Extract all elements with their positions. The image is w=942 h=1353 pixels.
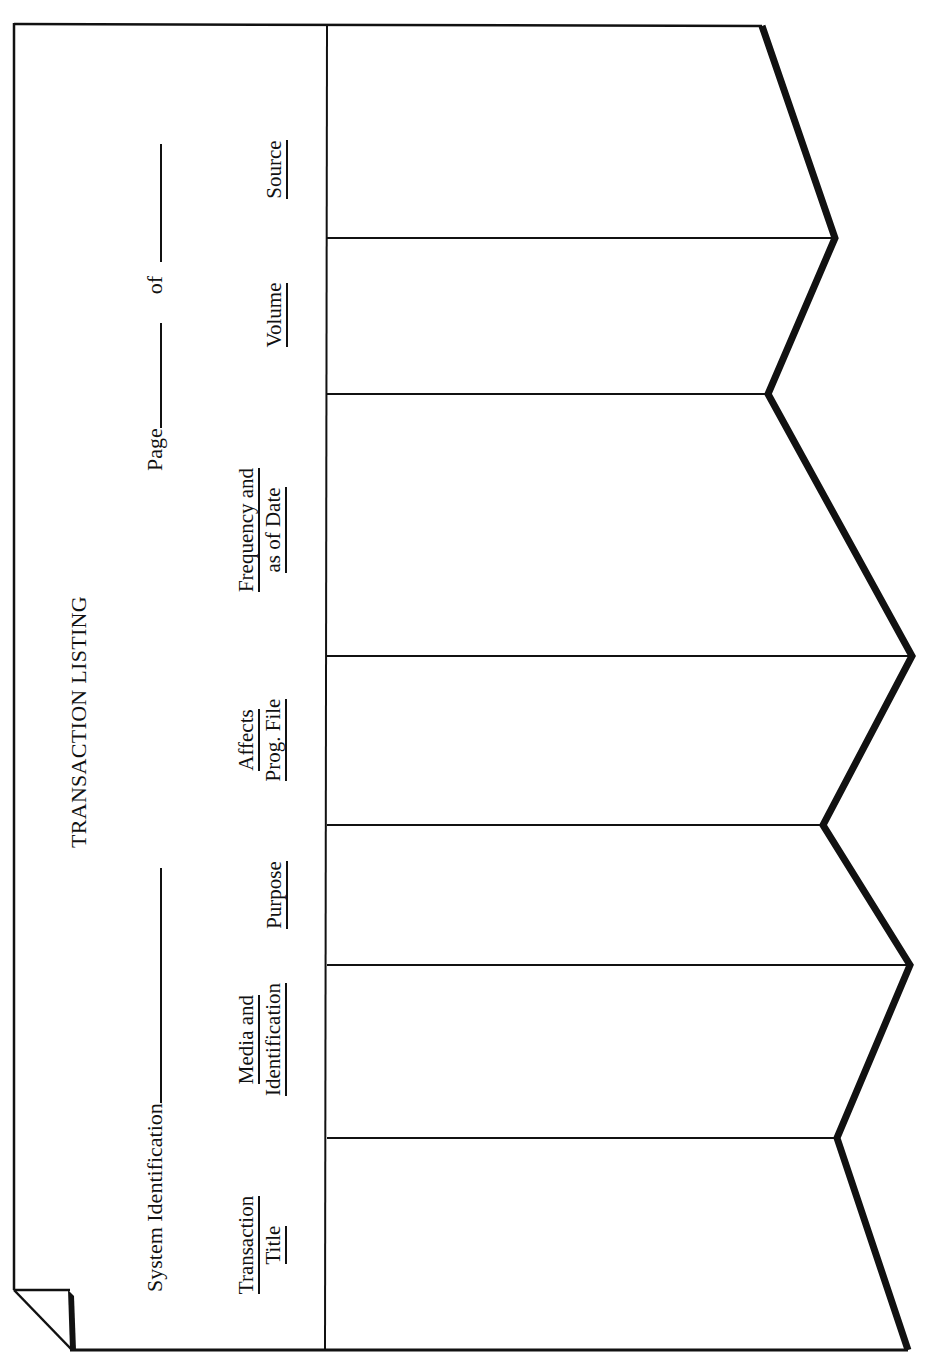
entry-cell-frequency-as-of-date[interactable] — [329, 396, 769, 654]
system-identification-label: System Identification — [142, 1103, 167, 1292]
column-header-media-identification: Media and Identification — [236, 967, 287, 1112]
page-input[interactable] — [142, 323, 162, 428]
column-header-volume: Volume — [264, 270, 288, 360]
folded-corner-icon — [14, 1290, 76, 1350]
page-label: Page — [142, 428, 167, 471]
column-header-frequency-as-of-date: Frequency and as of Date — [236, 460, 287, 600]
system-identification-field[interactable]: System Identification — [142, 868, 166, 1292]
of-input[interactable] — [142, 144, 162, 262]
entry-cell-purpose[interactable] — [329, 827, 819, 963]
column-header-transaction-title: Transaction Title — [236, 1185, 287, 1305]
page-number-field[interactable]: Page of — [142, 144, 166, 471]
entry-cell-source[interactable] — [329, 28, 759, 236]
of-label: of — [142, 276, 167, 294]
entry-cell-media-identification[interactable] — [329, 967, 829, 1136]
system-identification-input[interactable] — [142, 868, 162, 1103]
entry-cell-transaction-title[interactable] — [329, 1140, 834, 1348]
entry-cell-affects-prog-file[interactable] — [329, 658, 819, 823]
column-header-source: Source — [264, 127, 288, 212]
form-title: TRANSACTION LISTING — [68, 596, 90, 848]
column-header-affects-prog-file: Affects Prog. File — [236, 685, 287, 795]
entry-cell-volume[interactable] — [329, 240, 764, 392]
column-header-purpose: Purpose — [264, 850, 288, 940]
